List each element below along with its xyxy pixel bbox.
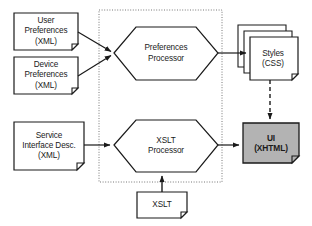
node-xslt	[137, 192, 187, 218]
node-xslt-processor	[114, 120, 218, 172]
diagram-svg	[0, 0, 312, 226]
edge-user-prefs-to-preferences-processor	[78, 32, 111, 52]
node-device-preferences	[14, 57, 78, 94]
node-ui-xhtml	[243, 123, 299, 163]
node-preferences-processor	[114, 27, 218, 80]
node-styles-css	[238, 25, 298, 80]
edge-device-prefs-to-preferences-processor	[78, 56, 111, 77]
diagram-canvas: User Preferences (XML) Device Preference…	[0, 0, 312, 226]
node-service-interface-desc	[14, 122, 84, 170]
node-user-preferences	[14, 13, 78, 50]
